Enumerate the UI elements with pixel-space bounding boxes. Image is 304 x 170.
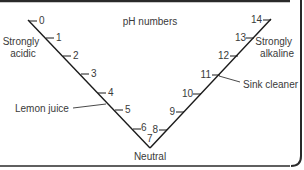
ph-label-11: 11 <box>201 69 212 80</box>
lemon-juice-leader <box>73 104 106 108</box>
diagram-title: pH numbers <box>123 16 177 27</box>
acidic-arm-line <box>28 20 150 148</box>
ph-scale-diagram: 0 1 2 3 4 5 6 7 8 9 10 11 12 13 14 pH nu… <box>0 0 304 170</box>
strongly-acidic-line1: Strongly <box>3 36 40 47</box>
sink-cleaner-label: Sink cleaner <box>243 79 299 90</box>
alkaline-labels: 8 9 10 11 12 13 14 <box>152 14 262 135</box>
strongly-alkaline-line2: alkaline <box>260 48 294 59</box>
sink-cleaner-leader <box>219 76 240 82</box>
ph-label-5: 5 <box>125 104 131 115</box>
neutral-label: Neutral <box>134 151 166 162</box>
strongly-acidic-line2: acidic <box>10 48 36 59</box>
acidic-labels: 0 1 2 3 4 5 6 7 <box>39 15 153 144</box>
ph-label-9: 9 <box>169 106 175 117</box>
ph-label-13: 13 <box>235 32 247 43</box>
ph-v-diagram-svg: 0 1 2 3 4 5 6 7 8 9 10 11 12 13 14 pH nu… <box>0 0 304 170</box>
lemon-juice-label: Lemon juice <box>15 103 69 114</box>
ph-label-12: 12 <box>218 50 230 61</box>
ph-label-2: 2 <box>73 50 79 61</box>
ph-label-8: 8 <box>152 124 158 135</box>
ph-label-0: 0 <box>39 15 45 26</box>
ph-label-10: 10 <box>182 88 194 99</box>
strongly-alkaline-line1: Strongly <box>255 36 292 47</box>
ph-label-4: 4 <box>108 87 114 98</box>
ph-label-14: 14 <box>251 14 263 25</box>
ph-label-1: 1 <box>56 32 62 43</box>
ph-label-6: 6 <box>141 122 147 133</box>
ph-label-3: 3 <box>91 68 97 79</box>
